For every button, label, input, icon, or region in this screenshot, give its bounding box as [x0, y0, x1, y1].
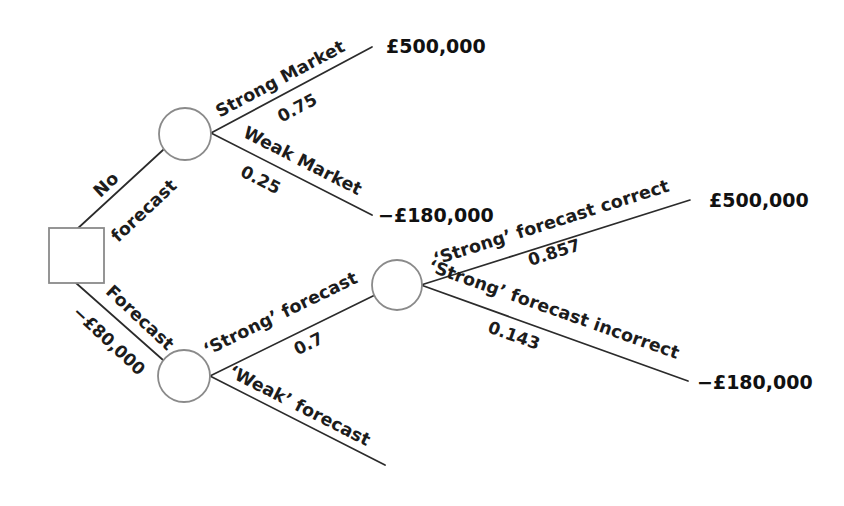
strong-forecast-chance-node	[372, 260, 422, 310]
payoff-weak-market: −£180,000	[378, 204, 494, 226]
label-strong-forecast-correct-probability: 0.857	[526, 235, 583, 270]
payoff-strong-forecast-correct: £500,000	[709, 189, 809, 211]
payoff-strong-market: £500,000	[386, 35, 486, 57]
label-strong-market-probability: 0.75	[274, 89, 320, 126]
label-strong-forecast-incorrect: ‘Strong’ forecast incorrect	[426, 256, 682, 363]
no-forecast-chance-node	[159, 108, 211, 160]
label-strong-forecast-incorrect-probability: 0.143	[485, 317, 542, 354]
payoff-strong-forecast-incorrect: −£180,000	[697, 371, 813, 393]
decision-node	[49, 228, 104, 283]
label-strong-forecast-probability: 0.7	[290, 328, 326, 359]
label-no: No	[89, 168, 122, 201]
branch-line-weak-forecast	[210, 376, 385, 465]
label-weak-forecast: ‘Weak’ forecast	[226, 361, 374, 450]
decision-tree-diagram: No forecast Forecast −£80,000 Strong Mar…	[0, 0, 844, 506]
forecast-chance-node	[158, 350, 210, 402]
